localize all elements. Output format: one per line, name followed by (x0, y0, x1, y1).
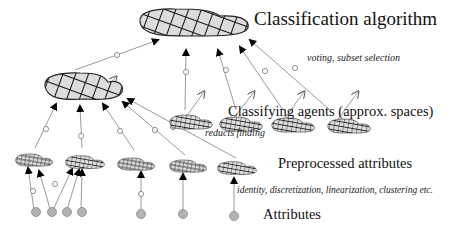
attribute-nodes (32, 208, 239, 221)
preprocessed-nodes (16, 154, 257, 175)
label-attributes: Attributes (263, 206, 321, 223)
label-classifying-agents: Classifying agents (approx. spaces) (228, 103, 433, 120)
reducts-node (45, 73, 123, 100)
annotation-preprocessing: identity, discretization, linearization,… (237, 185, 433, 195)
label-classification-algorithm: Classification algorithm (254, 8, 437, 30)
annotation-voting: voting, subset selection (307, 52, 400, 63)
label-preprocessed-attributes: Preprocessed attributes (278, 155, 412, 172)
classification-algorithm-node (140, 9, 248, 36)
annotation-reducts: reducts finding (205, 127, 265, 138)
